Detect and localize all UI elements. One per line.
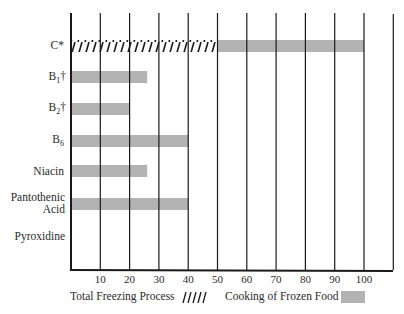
label-b6: B6 — [0, 133, 64, 150]
x-tick-label: 10 — [95, 273, 106, 285]
legend-gray-swatch — [341, 291, 365, 303]
label-niacin: Niacin — [0, 165, 64, 177]
label-pyroxidine: Pyroxidine — [0, 230, 65, 242]
x-tick-label: 70 — [271, 273, 282, 285]
label-c: C* — [0, 39, 64, 51]
x-tick-label: 20 — [124, 273, 135, 285]
x-tick-label: 90 — [329, 273, 340, 285]
x-tick-label: 60 — [241, 273, 252, 285]
x-tick-label: 50 — [212, 273, 223, 285]
x-axis — [70, 270, 393, 271]
legend-hatch-swatch — [183, 292, 206, 303]
bar-freezing — [71, 40, 218, 52]
x-tick-label: 40 — [183, 273, 194, 285]
legend-cooking-label: Cooking of Frozen Food — [225, 290, 338, 302]
label-b2: B2† — [0, 101, 66, 118]
x-tick-label: 100 — [356, 273, 373, 285]
label-b1: B1† — [0, 70, 66, 87]
legend-freezing-label: Total Freezing Process — [70, 290, 175, 302]
bar-cooking — [71, 71, 147, 83]
x-tick-label: 80 — [300, 273, 311, 285]
bar-cooking — [71, 165, 147, 177]
label-pantothenic: Pantothenic Acid — [0, 191, 65, 215]
x-tick-label: 30 — [153, 273, 164, 285]
bar-cooking — [218, 40, 365, 52]
